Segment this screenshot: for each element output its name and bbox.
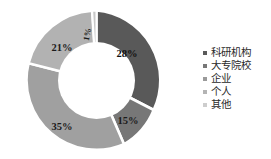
- data-label-dazhuan-yuanxiao: 15%: [118, 115, 139, 126]
- legend-item-label: 企业: [211, 73, 231, 85]
- legend-item-label: 个人: [211, 86, 231, 98]
- legend-item-dazhuan-yuanxiao[interactable]: 大专院校: [203, 59, 271, 72]
- legend-item-geren[interactable]: 个人: [203, 85, 271, 98]
- legend-item-qiye[interactable]: 企业: [203, 72, 271, 85]
- legend-item-qita[interactable]: 其他: [203, 98, 271, 111]
- legend-item-keyan-jigou[interactable]: 科研机构: [203, 46, 271, 59]
- doughnut-chart-svg: 28% 15% 35% 21% 1%: [24, 8, 169, 153]
- doughnut-chart: 28% 15% 35% 21% 1%: [24, 8, 169, 153]
- legend-swatch-icon: [203, 64, 207, 68]
- legend-item-label: 大专院校: [211, 60, 251, 72]
- chart-legend: 科研机构 大专院校 企业 个人 其他: [203, 46, 271, 111]
- data-label-qiye: 35%: [52, 121, 73, 132]
- legend-item-label: 科研机构: [211, 47, 251, 59]
- data-label-geren: 21%: [52, 42, 73, 53]
- legend-swatch-icon: [203, 90, 207, 94]
- legend-item-label: 其他: [211, 99, 231, 111]
- data-label-keyan-jigou: 28%: [117, 48, 138, 59]
- chart-figure: 28% 15% 35% 21% 1% 科研机构 大专院校 企业 个人 其他: [0, 0, 271, 159]
- legend-swatch-icon: [203, 51, 207, 55]
- legend-swatch-icon: [203, 77, 207, 81]
- legend-swatch-icon: [203, 103, 207, 107]
